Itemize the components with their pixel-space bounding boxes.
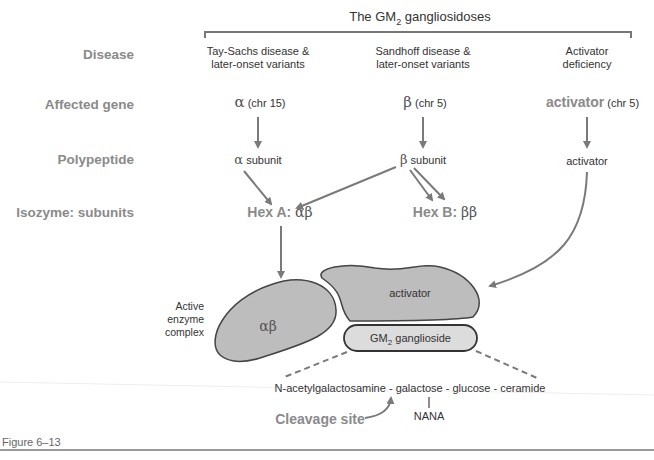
disease-line2: later-onset variants (198, 58, 318, 71)
enzyme-alphabeta-label: αβ (248, 320, 288, 333)
arrow-activator-to-complex (490, 172, 587, 286)
disease-sandhoff: Sandhoff disease & later-onset variants (363, 45, 483, 71)
polypeptide-label: subunit (407, 154, 446, 166)
complex-label-line: complex (150, 326, 204, 339)
title-prefix: The GM (349, 9, 396, 24)
row-label-isozyme: Isozyme: subunits (16, 205, 134, 220)
gene-symbol: α (234, 93, 244, 111)
nana-label: NANA (409, 410, 449, 423)
gene-alpha: α (chr 15) (210, 96, 310, 110)
polypeptide-label: subunit (243, 154, 282, 166)
polypeptide-label: activator (566, 155, 608, 167)
row-label-disease: Disease (83, 47, 134, 62)
ganglioside-label: GM2 ganglioside (344, 332, 477, 349)
disease-line1: Tay-Sachs disease & (198, 45, 318, 58)
dashed-leader-left (282, 352, 347, 378)
isozyme-hexA: Hex A: αβ (225, 206, 335, 220)
gene-symbol: activator (546, 94, 604, 110)
isozyme-subunits: ββ (461, 204, 477, 220)
gene-chromosome: (chr 15) (245, 97, 286, 109)
figure-label: Figure 6–13 (2, 436, 61, 448)
gene-activator: activator (chr 5) (530, 96, 654, 110)
disease-activator-deficiency: Activator deficiency (537, 45, 637, 71)
disease-tay-sachs: Tay-Sachs disease & later-onset variants (198, 45, 318, 71)
complex-label-line: enzyme (150, 313, 204, 326)
arrow-alpha-to-hexA (244, 171, 271, 204)
title-suffix: gangliosidoses (401, 9, 491, 24)
isozyme-hexB: Hex B: ββ (390, 206, 500, 220)
gangliosidoses-bracket (205, 32, 631, 38)
polypeptide-beta: β subunit (383, 153, 463, 167)
polypeptide-alpha: α subunit (218, 153, 298, 167)
disease-line2: deficiency (537, 58, 637, 71)
disease-line1: Sandhoff disease & (363, 45, 483, 58)
row-label-polypeptide: Polypeptide (57, 152, 134, 167)
polypeptide-symbol: α (234, 152, 243, 167)
isozyme-name: Hex B: (413, 204, 461, 220)
gene-beta: β (chr 5) (375, 96, 475, 110)
activator-label: activator (370, 287, 450, 300)
disease-line1: Activator (537, 45, 637, 58)
dashed-leader-right (476, 351, 537, 378)
isozyme-name: Hex A: (247, 204, 295, 220)
active-enzyme-complex-label: Active enzyme complex (150, 300, 204, 339)
isozyme-subunits: αβ (295, 204, 313, 220)
diagram-title: The GM2 gangliosidoses (320, 10, 520, 29)
cleavage-site-label: Cleavage site (270, 413, 370, 426)
disease-line2: later-onset variants (363, 58, 483, 71)
gene-symbol: β (403, 93, 412, 111)
complex-label-line: Active (150, 300, 204, 313)
gene-chromosome: (chr 5) (604, 97, 639, 109)
ganglioside-prefix: GM (370, 332, 388, 344)
ganglioside-suffix: ganglioside (392, 332, 451, 344)
row-label-affected-gene: Affected gene (45, 97, 134, 112)
polypeptide-activator: activator (547, 155, 627, 168)
gene-chromosome: (chr 5) (412, 97, 447, 109)
ganglioside-chain: N-acetylgalactosamine - galactose - gluc… (270, 382, 550, 395)
arrow-beta-to-hexA (297, 167, 396, 208)
